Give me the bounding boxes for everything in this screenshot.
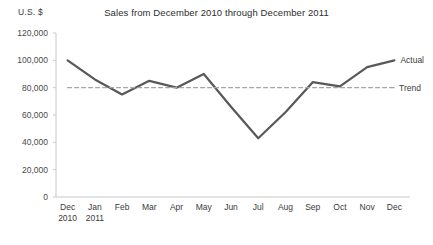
plot-area: 120,000100,00080,00060,00040,00020,0000 …	[0, 0, 433, 245]
x-axis-tick-label: Jun	[224, 202, 238, 212]
y-axis-tick-label: 120,000	[17, 28, 48, 38]
sales-line-chart: U.S. $ Sales from December 2010 through …	[0, 0, 433, 245]
x-axis-tick-label: Nov	[360, 202, 376, 212]
y-axis-tick-label: 100,000	[17, 55, 48, 65]
y-axis-tick-label: 60,000	[22, 110, 48, 120]
data-series-lines	[68, 60, 395, 138]
x-axis-tick-label: Dec2010	[58, 202, 77, 223]
series-label-actual: Actual	[400, 55, 424, 65]
x-axis-tick-label: May	[196, 202, 213, 212]
y-axis-tick-label: 80,000	[22, 83, 48, 93]
series-line-actual	[68, 60, 395, 138]
x-axis-tick-label: Apr	[170, 202, 183, 212]
series-label-trend: Trend	[399, 83, 421, 93]
y-axis-tick-label: 40,000	[22, 137, 48, 147]
x-axis-tick-label: Oct	[333, 202, 347, 212]
y-axis-tick-label: 20,000	[22, 165, 48, 175]
x-axis-tick-label: Dec	[387, 202, 403, 212]
x-axis-tick-labels: Dec2010Jan2011FebMarAprMayJunJulAugSepOc…	[58, 202, 403, 223]
y-axis-tick-labels: 120,000100,00080,00060,00040,00020,0000	[17, 28, 48, 202]
x-axis-tick-label: Jul	[253, 202, 264, 212]
series-inline-labels: ActualTrend	[399, 55, 424, 92]
x-axis-tick-label: Aug	[278, 202, 293, 212]
y-axis-tick-label: 0	[43, 192, 48, 202]
x-axis-tick-label: Sep	[305, 202, 320, 212]
x-axis-tick-label: Jan2011	[86, 202, 105, 223]
x-axis-tick-label: Feb	[115, 202, 130, 212]
x-axis-tick-label: Mar	[142, 202, 157, 212]
